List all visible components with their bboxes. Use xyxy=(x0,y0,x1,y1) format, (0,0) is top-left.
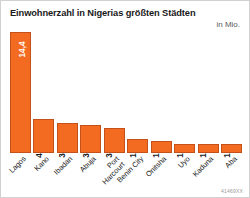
category-axis-labels: LagosKanoIbadanAbujaPortHarcourtBenin Ci… xyxy=(10,154,242,196)
bar xyxy=(33,119,54,153)
source-code: 41469XX xyxy=(221,188,243,194)
bar xyxy=(221,144,242,153)
bar xyxy=(104,128,125,153)
bar xyxy=(127,139,148,153)
bar xyxy=(80,125,101,153)
bar-value-label: 14,4 xyxy=(11,36,32,58)
chart-header: Einwohnerzahl in Nigerias größten Städte… xyxy=(1,1,250,30)
bar xyxy=(57,123,78,153)
bar: 14,4 xyxy=(10,32,31,153)
bar xyxy=(151,141,172,153)
bar xyxy=(198,144,219,153)
bar xyxy=(174,144,195,153)
bar-chart-plot-area: 14,44,03,63,33,01,71,41,11,11,1 xyxy=(10,32,242,153)
chart-subtitle: in Mio. xyxy=(10,20,242,30)
chart-card: Einwohnerzahl in Nigerias größten Städte… xyxy=(0,0,250,198)
page-title: Einwohnerzahl in Nigerias größten Städte… xyxy=(10,8,242,19)
